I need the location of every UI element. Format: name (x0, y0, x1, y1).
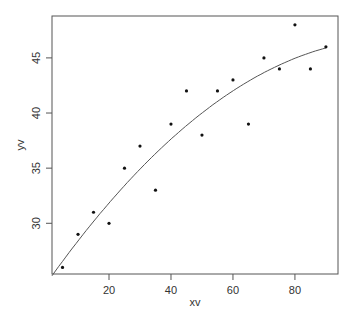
x-tick-label: 60 (227, 284, 239, 296)
data-point (309, 67, 312, 70)
y-tick-label: 30 (30, 217, 42, 229)
y-tick-label: 40 (30, 107, 42, 119)
data-point (185, 89, 188, 92)
data-point (324, 45, 327, 48)
data-point (61, 266, 64, 269)
x-axis-label: xv (190, 296, 202, 308)
data-point (123, 167, 126, 170)
y-axis: 30354045 (30, 52, 52, 230)
x-tick-label: 20 (103, 284, 115, 296)
data-point (76, 233, 79, 236)
scatter-plot: 30354045 20406080 xv yv (0, 0, 356, 321)
data-point (200, 133, 203, 136)
y-axis-label: yv (14, 139, 26, 151)
data-point (154, 189, 157, 192)
data-point (247, 122, 250, 125)
x-axis: 20406080 (103, 274, 301, 296)
y-tick-label: 45 (30, 52, 42, 64)
fitted-curve (52, 48, 326, 276)
data-point (216, 89, 219, 92)
data-point (262, 56, 265, 59)
data-point (169, 122, 172, 125)
data-point (107, 222, 110, 225)
x-tick-label: 40 (165, 284, 177, 296)
y-tick-label: 35 (30, 162, 42, 174)
plot-box (52, 16, 338, 274)
data-point (231, 78, 234, 81)
x-tick-label: 80 (289, 284, 301, 296)
data-point (92, 211, 95, 214)
data-points (61, 23, 328, 269)
data-point (138, 145, 141, 148)
data-point (278, 67, 281, 70)
data-point (293, 23, 296, 26)
